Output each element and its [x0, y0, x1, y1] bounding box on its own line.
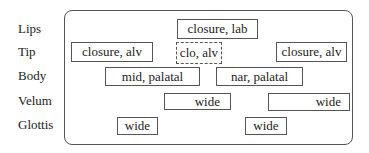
gesture-velum-wide-2: wide: [268, 93, 350, 111]
tier-label-lips: Lips: [18, 21, 41, 37]
tier-label-body: Body: [18, 68, 46, 84]
gesture-glottis-wide-2: wide: [245, 117, 287, 135]
gesture-tip-closure-alv-1: closure, alv: [71, 42, 153, 62]
gesture-body-mid-palatal: mid, palatal: [105, 67, 200, 86]
tier-label-velum: Velum: [18, 93, 52, 109]
gesture-velum-wide-1: wide: [164, 93, 231, 110]
gesture-body-nar-palatal: nar, palatal: [216, 67, 303, 86]
tier-label-glottis: Glottis: [18, 117, 53, 133]
gesture-tip-closure-alv-2: closure, alv: [276, 42, 347, 62]
gesture-lips-closure-lab: closure, lab: [177, 19, 258, 39]
gesture-glottis-wide-1: wide: [117, 117, 158, 135]
gesture-tip-clo-alv-dashed: clo, alv: [176, 42, 222, 64]
tier-label-tip: Tip: [18, 44, 36, 60]
